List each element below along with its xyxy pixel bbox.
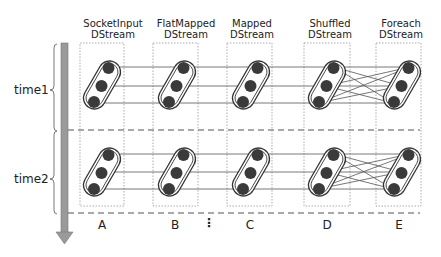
column-label-a: A <box>87 218 117 232</box>
time1-label: time1 <box>14 83 49 97</box>
ellipsis: ⋮ <box>194 216 224 230</box>
column-label-d: D <box>312 218 342 232</box>
time2-label: time2 <box>14 172 49 186</box>
rdd-nodes-time1 <box>79 57 424 113</box>
column-label-c: C <box>235 218 265 232</box>
column-label-b: B <box>160 218 190 232</box>
column-label-e: E <box>384 218 414 232</box>
timeline-arrow-icon <box>56 43 73 244</box>
brace-time1 <box>50 44 57 131</box>
brace-time2 <box>50 131 57 214</box>
